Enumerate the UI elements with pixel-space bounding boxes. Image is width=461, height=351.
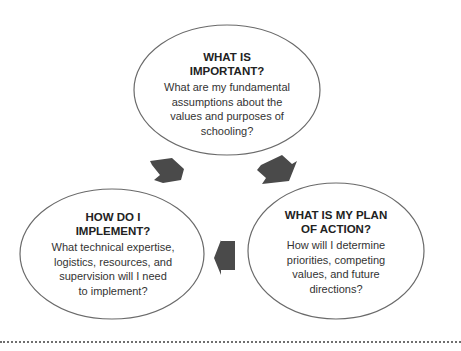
node-plan-body: How will I determine priorities, competi… bbox=[258, 238, 414, 296]
body-line: priorities, competing bbox=[258, 253, 414, 268]
arrow-down-right-icon bbox=[257, 155, 297, 184]
body-line: values and purposes of bbox=[144, 109, 310, 124]
arrow-up-left-icon bbox=[150, 158, 184, 183]
body-line: to implement? bbox=[30, 284, 196, 299]
body-line: directions? bbox=[258, 282, 414, 297]
body-line: schooling? bbox=[144, 124, 310, 139]
title-line: IMPORTANT? bbox=[144, 64, 310, 78]
body-line: What technical expertise, bbox=[30, 240, 196, 255]
title-line: OF ACTION? bbox=[258, 222, 414, 236]
arrow-left-icon bbox=[214, 240, 235, 275]
title-line: IMPLEMENT? bbox=[30, 224, 196, 238]
body-line: What are my fundamental bbox=[144, 80, 310, 95]
body-line: supervision will I need bbox=[30, 269, 196, 284]
body-line: assumptions about the bbox=[144, 95, 310, 110]
body-line: How will I determine bbox=[258, 238, 414, 253]
dotted-divider bbox=[0, 341, 461, 343]
node-plan-title: WHAT IS MY PLAN OF ACTION? bbox=[258, 208, 414, 236]
title-line: WHAT IS MY PLAN bbox=[258, 208, 414, 222]
title-line: WHAT IS bbox=[144, 50, 310, 64]
node-implement: HOW DO I IMPLEMENT? What technical exper… bbox=[30, 210, 196, 298]
node-important-body: What are my fundamental assumptions abou… bbox=[144, 80, 310, 138]
node-important: WHAT IS IMPORTANT? What are my fundament… bbox=[144, 50, 310, 138]
body-line: values, and future bbox=[258, 267, 414, 282]
title-line: HOW DO I bbox=[30, 210, 196, 224]
node-implement-body: What technical expertise, logistics, res… bbox=[30, 240, 196, 298]
node-plan: WHAT IS MY PLAN OF ACTION? How will I de… bbox=[258, 208, 414, 296]
body-line: logistics, resources, and bbox=[30, 255, 196, 270]
node-important-title: WHAT IS IMPORTANT? bbox=[144, 50, 310, 78]
node-implement-title: HOW DO I IMPLEMENT? bbox=[30, 210, 196, 238]
